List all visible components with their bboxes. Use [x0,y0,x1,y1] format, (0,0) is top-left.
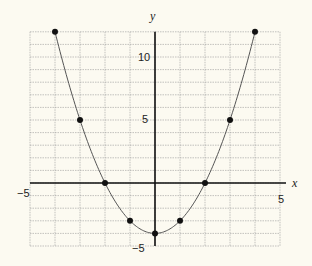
data-point [252,29,258,35]
y-tick-10: 10 [138,52,150,63]
data-point [52,29,58,35]
data-point [152,230,158,236]
data-point [177,218,183,224]
data-point [227,117,233,123]
data-point [77,117,83,123]
plot-area [0,0,312,266]
data-point [127,218,133,224]
data-point [102,180,108,186]
x-tick-neg5: −5 [17,188,30,199]
x-tick-5: 5 [278,194,284,205]
axes [30,32,286,246]
y-tick-5: 5 [142,114,148,125]
x-axis-label: x [292,177,297,189]
y-tick-neg5: −5 [132,243,145,254]
y-axis-label: y [150,10,155,22]
data-point [202,180,208,186]
